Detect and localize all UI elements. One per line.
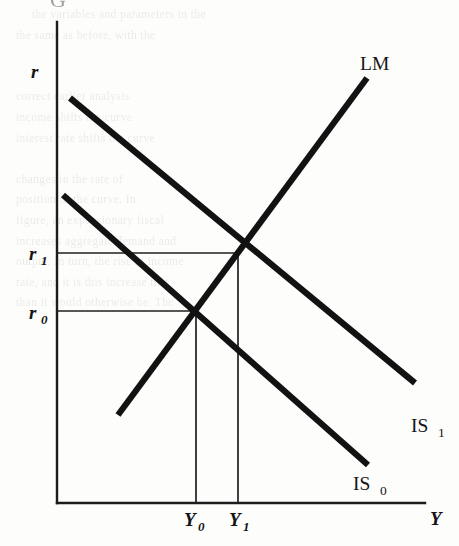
tick-label-y0-base: Y bbox=[184, 509, 198, 530]
x-axis-label: Y bbox=[430, 508, 444, 529]
is0-curve-label-sub: 0 bbox=[380, 483, 387, 498]
tick-label-r0-sub: 0 bbox=[41, 312, 48, 327]
is0-curve-label: IS 0 bbox=[353, 473, 387, 498]
is1-curve bbox=[70, 98, 415, 383]
is-lm-chart: r Y r 1 r 0 Y 0 Y 1 LM IS 1 I bbox=[0, 0, 459, 546]
tick-label-r0: r 0 bbox=[29, 302, 48, 327]
is0-curve bbox=[63, 195, 368, 465]
tick-label-r1-base: r bbox=[29, 243, 37, 264]
tick-label-y1-base: Y bbox=[229, 509, 243, 530]
lm-curve bbox=[118, 78, 367, 415]
tick-label-y0: Y 0 bbox=[184, 509, 205, 534]
is1-curve-label-base: IS bbox=[411, 415, 428, 436]
tick-label-r1-sub: 1 bbox=[41, 253, 48, 268]
tick-label-r0-base: r bbox=[29, 302, 37, 323]
is1-curve-label-sub: 1 bbox=[438, 425, 445, 440]
figure-page: the variables and parameters in the the … bbox=[0, 0, 459, 546]
lm-curve-label: LM bbox=[360, 53, 389, 74]
is0-curve-label-base: IS bbox=[353, 473, 370, 494]
tick-label-y0-sub: 0 bbox=[198, 519, 205, 534]
tick-label-y1: Y 1 bbox=[229, 509, 250, 534]
y-axis-label: r bbox=[31, 61, 39, 82]
tick-label-r1: r 1 bbox=[29, 243, 48, 268]
tick-label-y1-sub: 1 bbox=[243, 519, 250, 534]
is1-curve-label: IS 1 bbox=[411, 415, 445, 440]
